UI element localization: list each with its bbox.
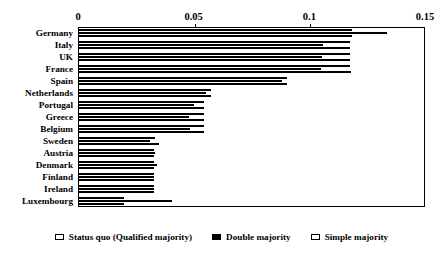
y-axis-category-label: France (45, 65, 73, 74)
legend-item: Status quo (Qualified majority) (55, 232, 192, 242)
legend-swatch-icon (311, 234, 320, 240)
legend-item: Simple majority (311, 232, 389, 242)
bar-open (78, 83, 287, 86)
bar-open (78, 179, 154, 182)
x-axis-tick-label: 0.05 (184, 11, 202, 23)
y-axis-category-label: Netherlands (25, 89, 73, 98)
bar-open (78, 95, 211, 98)
bar-open (78, 143, 159, 146)
y-axis-category-labels: GermanyItalyUKFranceSpainNetherlandsPort… (0, 27, 76, 207)
y-axis-category-label: Italy (55, 41, 73, 50)
y-axis-category-label: Luxembourg (22, 197, 73, 206)
bar-open (78, 35, 352, 38)
legend-item: Double majority (212, 232, 291, 242)
bar-open (78, 71, 351, 74)
bar-open (78, 155, 154, 158)
y-axis-category-label: Sweden (43, 137, 73, 146)
bar-open (78, 47, 350, 50)
bar-open (78, 59, 350, 62)
x-axis-tick-label: 0 (75, 11, 80, 23)
y-axis-category-label: Austria (43, 149, 73, 158)
y-axis-category-label: Portugal (39, 101, 73, 110)
y-axis-category-label: Finland (42, 173, 73, 182)
legend-swatch-icon (212, 234, 221, 240)
bars-layer (78, 27, 425, 207)
y-axis-category-label: Ireland (44, 185, 73, 194)
x-axis-tick-labels: 00.050.10.15 (0, 11, 443, 25)
x-axis-tick-label: 0.1 (303, 11, 316, 23)
bar-chart: 00.050.10.15 GermanyItalyUKFranceSpainNe… (0, 0, 443, 253)
y-axis-category-label: UK (59, 53, 73, 62)
bar-open (78, 203, 124, 206)
chart-legend: Status quo (Qualified majority)Double ma… (0, 228, 443, 246)
bar-open (78, 119, 204, 122)
x-axis-tick-label: 0.15 (416, 11, 434, 23)
legend-label: Double majority (226, 232, 291, 242)
legend-swatch-icon (55, 234, 64, 240)
bar-open (78, 191, 154, 194)
y-axis-category-label: Germany (36, 29, 73, 38)
bar-open (78, 107, 204, 110)
y-axis-category-label: Denmark (36, 161, 73, 170)
y-axis-category-label: Spain (51, 77, 73, 86)
legend-label: Status quo (Qualified majority) (69, 232, 192, 242)
y-axis-category-label: Greece (46, 113, 73, 122)
bar-open (78, 167, 154, 170)
bar-open (78, 131, 204, 134)
y-axis-category-label: Belgium (40, 125, 73, 134)
legend-label: Simple majority (325, 232, 389, 242)
